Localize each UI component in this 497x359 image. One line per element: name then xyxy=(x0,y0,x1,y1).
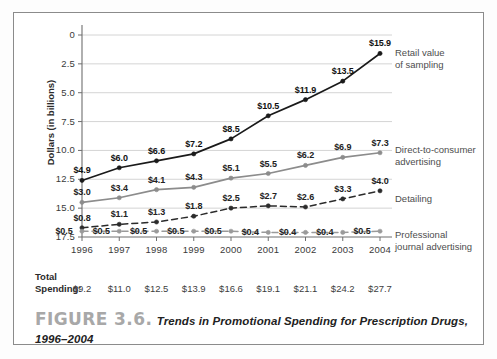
series-marker xyxy=(378,151,382,155)
series-marker xyxy=(341,197,345,201)
series-marker xyxy=(117,166,121,170)
data-point-label: $6.0 xyxy=(105,153,133,163)
figure-number: FIGURE 3.6. xyxy=(35,309,152,329)
series-marker xyxy=(341,230,345,234)
series-marker xyxy=(303,205,307,209)
x-axis-tick-label: 1998 xyxy=(137,244,177,255)
data-point-label: $7.3 xyxy=(366,138,394,148)
series-label-line1: Detailing xyxy=(395,193,432,205)
series-marker xyxy=(154,229,158,233)
data-point-label: $4.1 xyxy=(143,175,171,185)
data-point-label: $3.4 xyxy=(105,183,133,193)
series-marker xyxy=(192,152,196,156)
series-marker xyxy=(266,230,270,234)
data-point-label: $3.3 xyxy=(329,184,357,194)
series-marker xyxy=(266,171,270,175)
data-point-label: $8.5 xyxy=(217,124,245,134)
total-spending-row: Total Spending: $9.2$11.0$12.5$13.9$16.6… xyxy=(14,271,485,305)
data-point-label: $0.5 xyxy=(50,226,78,236)
data-point-label: $1.8 xyxy=(180,201,208,211)
y-axis-tick-label: 15.0 xyxy=(24,202,75,213)
series-marker xyxy=(303,230,307,234)
x-axis-tick-label: 1996 xyxy=(62,244,102,255)
series-marker xyxy=(341,79,345,83)
series-label-professional-journal-advertising: Professional journal advertising xyxy=(395,229,472,252)
series-marker xyxy=(192,229,196,233)
data-point-label: $1.3 xyxy=(143,207,171,217)
series-marker xyxy=(117,196,121,200)
series-marker xyxy=(378,189,382,193)
data-point-label: $4.9 xyxy=(68,165,96,175)
series-marker xyxy=(229,229,233,233)
series-marker xyxy=(80,229,84,233)
x-axis-tick-label: 1997 xyxy=(99,244,139,255)
data-point-label: $10.5 xyxy=(254,101,282,111)
series-label-line1: Retail value xyxy=(395,47,445,59)
data-point-label: $6.9 xyxy=(329,142,357,152)
series-marker xyxy=(154,220,158,224)
series-marker xyxy=(117,222,121,226)
series-marker xyxy=(266,204,270,208)
series-label-line1: Professional xyxy=(395,229,472,241)
x-axis-tick-label: 2004 xyxy=(360,244,400,255)
data-point-label: $7.2 xyxy=(180,139,208,149)
data-point-label: $0.4 xyxy=(274,227,302,237)
series-marker xyxy=(229,206,233,210)
figure-caption: FIGURE 3.6. Trends in Promotional Spendi… xyxy=(35,309,475,347)
data-point-label: $1.1 xyxy=(105,209,133,219)
series-label-detailing: Detailing xyxy=(395,193,432,205)
series-marker xyxy=(117,229,121,233)
data-point-label: $5.1 xyxy=(217,163,245,173)
x-axis-tick-label: 1999 xyxy=(174,244,214,255)
series-marker xyxy=(154,188,158,192)
y-axis-tick-label: 0 xyxy=(24,29,75,40)
data-point-label: $0.8 xyxy=(68,213,96,223)
series-label-line2: journal advertising xyxy=(395,241,472,253)
data-point-label: $13.5 xyxy=(329,66,357,76)
series-label-direct-to-consumer-advertising: Direct-to-consumer advertising xyxy=(395,144,476,167)
x-axis-tick-label: 2001 xyxy=(248,244,288,255)
data-point-label: $6.6 xyxy=(143,146,171,156)
series-marker xyxy=(303,98,307,102)
y-axis-title: Dollars (in billions) xyxy=(45,58,56,188)
data-point-label: $0.5 xyxy=(199,226,227,236)
series-marker xyxy=(192,214,196,218)
series-marker xyxy=(80,178,84,182)
series-marker xyxy=(378,229,382,233)
series-marker xyxy=(303,163,307,167)
series-marker xyxy=(266,114,270,118)
data-point-label: $0.5 xyxy=(87,226,115,236)
series-marker xyxy=(378,51,382,55)
x-axis-tick-label: 2002 xyxy=(286,244,326,255)
series-marker xyxy=(80,200,84,204)
total-spending-value: $27.7 xyxy=(358,283,402,294)
chart-plot-region: 17.515.012.510.07.55.02.50 Dollars (in b… xyxy=(14,13,485,297)
data-point-label: $2.6 xyxy=(292,192,320,202)
series-label-line1: Direct-to-consumer xyxy=(395,144,476,156)
series-marker xyxy=(229,137,233,141)
series-marker xyxy=(229,176,233,180)
x-axis-tick-label: 2003 xyxy=(323,244,363,255)
data-point-label: $6.2 xyxy=(292,150,320,160)
figure-container: 17.515.012.510.07.55.02.50 Dollars (in b… xyxy=(0,0,497,359)
series-label-line2: of sampling xyxy=(395,59,445,71)
x-axis-tick-label: 2000 xyxy=(211,244,251,255)
figure-frame: 17.515.012.510.07.55.02.50 Dollars (in b… xyxy=(13,12,484,345)
data-point-label: $0.4 xyxy=(311,227,339,237)
data-point-label: $2.5 xyxy=(217,193,245,203)
data-point-label: $0.4 xyxy=(236,227,264,237)
data-point-label: $4.0 xyxy=(366,176,394,186)
series-marker xyxy=(154,159,158,163)
data-point-label: $2.7 xyxy=(254,191,282,201)
data-point-label: $15.9 xyxy=(366,38,394,48)
series-label-retail-value-of-sampling: Retail value of sampling xyxy=(395,47,445,70)
data-point-label: $4.3 xyxy=(180,172,208,182)
data-point-label: $5.5 xyxy=(254,159,282,169)
series-label-line2: advertising xyxy=(395,156,476,168)
data-point-label: $11.9 xyxy=(292,85,320,95)
total-spending-label-line1: Total xyxy=(35,271,81,283)
data-point-label: $0.5 xyxy=(125,226,153,236)
data-point-label: $3.0 xyxy=(68,187,96,197)
data-point-label: $0.5 xyxy=(348,226,376,236)
data-point-label: $0.5 xyxy=(162,226,190,236)
